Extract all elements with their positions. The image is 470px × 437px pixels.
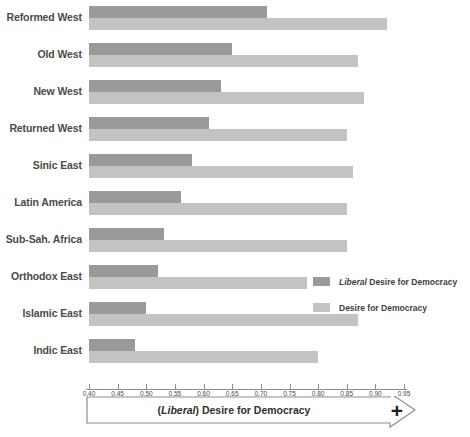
axis-title-suffix: ) Desire for Democracy bbox=[195, 404, 310, 416]
legend-swatch-desire bbox=[313, 303, 330, 312]
bar-liberal-desire bbox=[89, 302, 146, 314]
bar-desire bbox=[89, 203, 347, 215]
bar-desire bbox=[89, 55, 358, 67]
bar-group bbox=[89, 80, 364, 104]
bar-liberal-desire bbox=[89, 117, 209, 129]
category-label: Orthodox East bbox=[0, 270, 82, 282]
bar-desire bbox=[89, 240, 347, 252]
bar-liberal-desire bbox=[89, 191, 181, 203]
plus-icon: + bbox=[382, 396, 412, 424]
bar-row: Indic East bbox=[0, 333, 470, 370]
legend-rest-liberal: Desire for Democracy bbox=[367, 277, 457, 287]
x-tick bbox=[375, 384, 376, 389]
x-tick bbox=[175, 384, 176, 389]
legend-label-desire: Desire for Democracy bbox=[339, 303, 427, 313]
bar-liberal-desire bbox=[89, 228, 164, 240]
legend-item-desire: Desire for Democracy bbox=[313, 300, 457, 315]
x-tick bbox=[318, 384, 319, 389]
bar-row: Old West bbox=[0, 37, 470, 74]
bar-row: Sinic East bbox=[0, 148, 470, 185]
axis-title-text: (Liberal) Desire for Democracy bbox=[86, 396, 382, 424]
bar-group bbox=[89, 6, 387, 30]
bar-group bbox=[89, 43, 358, 67]
bar-row: Reformed West bbox=[0, 0, 470, 37]
bar-liberal-desire bbox=[89, 339, 135, 351]
chart-container: Reformed WestOld WestNew WestReturned We… bbox=[0, 0, 470, 437]
bar-desire bbox=[89, 129, 347, 141]
category-label: Indic East bbox=[0, 344, 82, 356]
legend-swatch-liberal-desire bbox=[313, 277, 330, 286]
bar-desire bbox=[89, 166, 353, 178]
bar-row: New West bbox=[0, 74, 470, 111]
bar-desire bbox=[89, 351, 318, 363]
bar-liberal-desire bbox=[89, 43, 232, 55]
bar-liberal-desire bbox=[89, 265, 158, 277]
bar-group bbox=[89, 191, 347, 215]
bar-group bbox=[89, 117, 347, 141]
x-tick bbox=[404, 384, 405, 389]
category-label: Sub-Sah. Africa bbox=[0, 233, 82, 245]
axis-title-banner: (Liberal) Desire for Democracy + bbox=[86, 396, 416, 434]
bar-group bbox=[89, 154, 353, 178]
axis-title-emphasis: Liberal bbox=[161, 404, 195, 416]
category-label: New West bbox=[0, 85, 82, 97]
bar-row: Latin America bbox=[0, 185, 470, 222]
legend-item-liberal-desire: Liberal Desire for Democracy bbox=[313, 274, 457, 289]
x-tick bbox=[118, 384, 119, 389]
bar-group bbox=[89, 339, 318, 363]
x-axis-line bbox=[86, 389, 407, 390]
legend-emphasis-liberal: Liberal bbox=[339, 277, 367, 287]
category-label: Reformed West bbox=[0, 11, 82, 23]
x-tick bbox=[261, 384, 262, 389]
bar-liberal-desire bbox=[89, 154, 192, 166]
bar-liberal-desire bbox=[89, 80, 221, 92]
x-tick bbox=[290, 384, 291, 389]
category-label: Islamic East bbox=[0, 307, 82, 319]
chart-legend: Liberal Desire for Democracy Desire for … bbox=[313, 274, 457, 326]
category-label: Latin America bbox=[0, 196, 82, 208]
x-tick bbox=[146, 384, 147, 389]
x-tick bbox=[232, 384, 233, 389]
legend-label-liberal-desire: Liberal Desire for Democracy bbox=[339, 277, 457, 287]
category-label: Returned West bbox=[0, 122, 82, 134]
bar-group bbox=[89, 265, 307, 289]
x-tick bbox=[347, 384, 348, 389]
category-label: Old West bbox=[0, 48, 82, 60]
x-tick bbox=[89, 384, 90, 389]
x-axis: 0.400.450.500.550.600.650.700.750.800.85… bbox=[0, 381, 470, 397]
x-tick bbox=[204, 384, 205, 389]
bar-row: Sub-Sah. Africa bbox=[0, 222, 470, 259]
bar-group bbox=[89, 228, 347, 252]
bar-liberal-desire bbox=[89, 6, 267, 18]
bar-row: Returned West bbox=[0, 111, 470, 148]
category-label: Sinic East bbox=[0, 159, 82, 171]
bar-desire bbox=[89, 18, 387, 30]
bar-desire bbox=[89, 277, 307, 289]
bar-desire bbox=[89, 92, 364, 104]
